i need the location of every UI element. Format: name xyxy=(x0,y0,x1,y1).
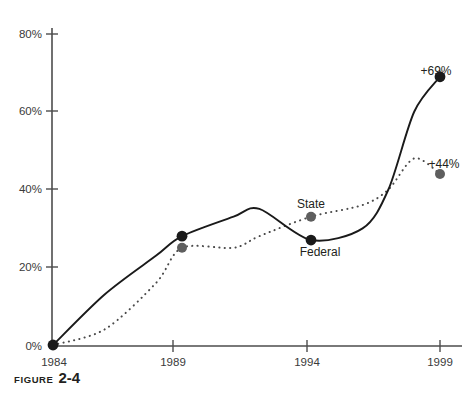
value-annotation-state: +44% xyxy=(428,157,459,171)
figure-container: 80% 60% 40% 20% 0% 1984 1989 1994 1999 S… xyxy=(0,0,471,396)
figure-caption: FIGURE 2-4 xyxy=(14,369,80,386)
data-point-marker xyxy=(177,231,188,242)
series-annotation-state: State xyxy=(297,197,325,211)
y-tick-label-40: 40% xyxy=(19,183,42,195)
data-point-marker xyxy=(306,212,316,222)
y-tick-label-60: 60% xyxy=(19,105,42,117)
x-tick-label-1994: 1994 xyxy=(294,356,320,368)
data-point-marker xyxy=(306,235,317,246)
series-line-state xyxy=(53,158,440,345)
y-tick-label-0: 0% xyxy=(25,340,42,352)
x-tick-label-1989: 1989 xyxy=(160,356,186,368)
series-line-federal xyxy=(53,77,440,345)
figure-caption-word: FIGURE xyxy=(14,374,54,385)
x-tick-label-1999: 1999 xyxy=(427,356,453,368)
x-tick-label-1984: 1984 xyxy=(41,356,67,368)
figure-caption-number: 2-4 xyxy=(59,369,81,386)
y-tick-label-20: 20% xyxy=(19,261,42,273)
value-annotation-federal: +69% xyxy=(420,64,451,78)
line-chart: 80% 60% 40% 20% 0% 1984 1989 1994 1999 S… xyxy=(0,0,471,396)
y-tick-label-80: 80% xyxy=(19,28,42,40)
data-point-marker xyxy=(177,243,187,253)
series-annotation-federal: Federal xyxy=(300,245,341,259)
data-point-marker xyxy=(48,340,59,351)
